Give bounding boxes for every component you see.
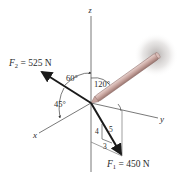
force-f1-label: F1 = 450 N (106, 159, 150, 170)
angle-120-label: 120° (94, 79, 110, 89)
force-f2-value: = 525 N (18, 58, 52, 68)
force-diagram: z y x 4 5 3 (0, 0, 180, 179)
z-axis-label: z (88, 6, 93, 15)
angle-45-label: 45° (54, 99, 66, 109)
y-axis (91, 103, 158, 118)
force-f1-value: = 450 N (116, 159, 150, 169)
angle-60-label: 60° (66, 73, 78, 83)
y-axis-label: y (159, 114, 164, 124)
slope-horizontal-label: 3 (103, 142, 107, 151)
slope-vertical-label: 4 (95, 127, 99, 136)
x-axis-label: x (32, 130, 37, 140)
force-f2-label: F2 = 525 N (8, 58, 52, 69)
